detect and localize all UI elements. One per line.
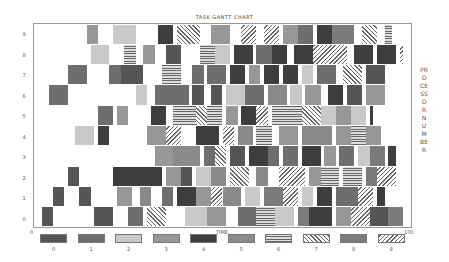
task-bar — [377, 187, 385, 206]
y-tick-label: 5 — [20, 113, 28, 119]
task-bar — [117, 106, 128, 125]
legend-label: 0 — [40, 246, 67, 252]
task-bar — [230, 146, 245, 165]
task-bar — [298, 25, 313, 44]
task-bar — [204, 146, 215, 165]
task-bar — [256, 207, 275, 226]
legend-swatch — [40, 234, 67, 243]
task-bar — [336, 187, 359, 206]
task-bar — [121, 65, 144, 84]
legend-label: 9 — [378, 246, 405, 252]
task-bar — [272, 45, 287, 64]
task-bar — [234, 45, 253, 64]
task-bar — [94, 207, 113, 226]
task-bar — [400, 45, 404, 64]
task-bar — [305, 85, 320, 104]
y-tick-label: 3 — [20, 154, 28, 160]
task-bar — [245, 85, 264, 104]
task-bar — [241, 25, 256, 44]
task-bar — [98, 126, 109, 145]
task-bar — [166, 126, 181, 145]
task-bar — [302, 146, 321, 165]
task-bar — [207, 65, 226, 84]
legend: 0123456789 — [0, 234, 449, 258]
legend-swatch — [78, 234, 105, 243]
task-bar — [241, 106, 256, 125]
task-bar — [245, 187, 260, 206]
task-bar — [238, 126, 253, 145]
task-bar — [264, 25, 279, 44]
legend-label: 6 — [265, 246, 292, 252]
task-bar — [377, 45, 396, 64]
task-bar — [196, 126, 219, 145]
task-bar — [256, 106, 267, 125]
task-bar — [324, 146, 335, 165]
task-bar — [290, 85, 301, 104]
task-bar — [298, 207, 309, 226]
task-bar — [336, 106, 351, 125]
task-bar — [68, 167, 79, 186]
task-bar — [177, 25, 200, 44]
task-bar — [181, 167, 192, 186]
task-bar — [196, 106, 207, 125]
legend-label: 2 — [115, 246, 142, 252]
y-tick-label: 0 — [20, 216, 28, 222]
task-bar — [223, 126, 234, 145]
task-bar — [268, 146, 279, 165]
task-bar — [196, 187, 211, 206]
task-bar — [388, 207, 403, 226]
task-bar — [256, 126, 271, 145]
legend-swatch — [378, 234, 405, 243]
legend-label: 5 — [228, 246, 255, 252]
task-bar — [211, 25, 230, 44]
task-bar — [332, 25, 355, 44]
task-bar — [249, 146, 268, 165]
legend-swatch — [115, 234, 142, 243]
task-bar — [309, 167, 320, 186]
task-bar — [230, 65, 245, 84]
task-bar — [117, 187, 132, 206]
task-bar — [336, 126, 351, 145]
task-bar — [302, 126, 317, 145]
task-bar — [279, 167, 305, 186]
task-bar — [166, 167, 181, 186]
task-bar — [113, 25, 136, 44]
task-bar — [283, 146, 298, 165]
task-bar — [230, 167, 249, 186]
task-bar — [362, 25, 377, 44]
task-bar — [136, 85, 147, 104]
task-bar — [140, 187, 151, 206]
task-bar — [226, 85, 245, 104]
task-bar — [226, 106, 237, 125]
task-bar — [321, 167, 340, 186]
task-bar — [91, 45, 110, 64]
task-bar — [147, 207, 166, 226]
task-bar — [351, 207, 370, 226]
task-bar — [317, 126, 332, 145]
task-bar — [53, 187, 64, 206]
task-bar — [351, 126, 366, 145]
task-bar — [328, 85, 343, 104]
task-bar — [68, 65, 87, 84]
legend-swatch — [303, 234, 330, 243]
task-bar — [185, 207, 208, 226]
y-tick-label: 7 — [20, 72, 28, 78]
task-bar — [294, 45, 313, 64]
legend-swatch — [153, 234, 180, 243]
task-bar — [370, 146, 385, 165]
task-bar — [264, 65, 279, 84]
task-bar — [79, 187, 90, 206]
legend-swatch — [190, 234, 217, 243]
task-bar — [238, 207, 257, 226]
task-bar — [354, 45, 373, 64]
task-bar — [211, 85, 222, 104]
plot-area — [33, 23, 412, 228]
legend-swatch — [265, 234, 292, 243]
task-bar — [124, 45, 135, 64]
task-bar — [377, 167, 396, 186]
task-bar — [302, 187, 313, 206]
task-bar — [155, 85, 189, 104]
task-bar — [155, 146, 174, 165]
task-bar — [366, 85, 385, 104]
y-axis-title: PROCESSOR NUMBER — [420, 66, 428, 154]
